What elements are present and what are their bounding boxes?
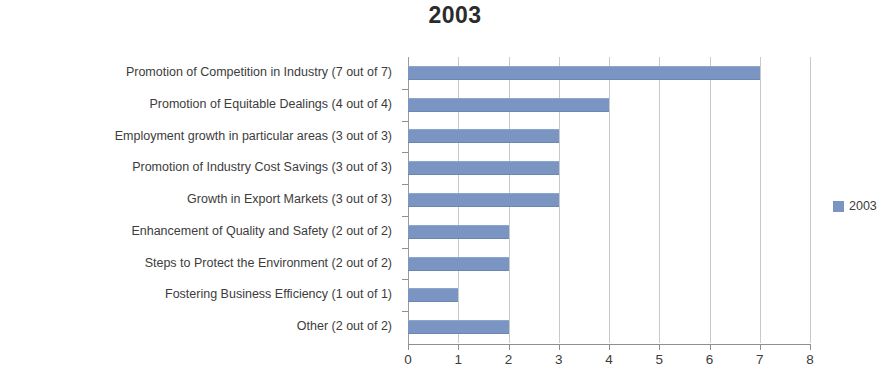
category-label: Promotion of Competition in Industry (7 …: [126, 57, 392, 89]
x-axis-tick: [458, 344, 459, 350]
category-label: Promotion of Equitable Dealings (4 out o…: [150, 89, 393, 121]
bar-row: [408, 248, 810, 280]
y-axis-tick: [402, 216, 408, 217]
x-axis-tick-label: 1: [443, 352, 473, 367]
legend-swatch-2003: [833, 201, 844, 212]
bar-row: [408, 184, 810, 216]
chart-title: 2003: [330, 2, 580, 29]
plot-area: [408, 57, 810, 343]
category-label: Fostering Business Efficiency (1 out of …: [165, 279, 392, 311]
bar: [408, 320, 509, 334]
category-label: Enhancement of Quality and Safety (2 out…: [131, 216, 392, 248]
gridline-8: [810, 57, 811, 343]
y-axis-tick: [402, 279, 408, 280]
legend-label-2003: 2003: [849, 199, 877, 213]
category-label: Growth in Export Markets (3 out of 3): [187, 184, 392, 216]
y-axis-tick: [402, 152, 408, 153]
category-label: Steps to Protect the Environment (2 out …: [145, 248, 392, 280]
bar: [408, 98, 609, 112]
bar-row: [408, 311, 810, 343]
x-axis-tick: [408, 344, 409, 350]
category-label: Promotion of Industry Cost Savings (3 ou…: [132, 152, 392, 184]
x-axis-tick: [710, 344, 711, 350]
bar-row: [408, 121, 810, 153]
bar-chart: 2003 Promotion of Competition in Industr…: [0, 0, 891, 377]
x-axis-tick-label: 4: [594, 352, 624, 367]
x-axis-tick-label: 2: [494, 352, 524, 367]
x-axis-tick: [559, 344, 560, 350]
x-axis-tick: [760, 344, 761, 350]
x-axis-tick-label: 7: [745, 352, 775, 367]
y-axis-tick: [402, 184, 408, 185]
bar-row: [408, 89, 810, 121]
x-axis-tick: [509, 344, 510, 350]
x-axis-tick-label: 0: [393, 352, 423, 367]
x-axis-tick-label: 3: [544, 352, 574, 367]
x-axis-tick-label: 8: [795, 352, 825, 367]
chart-legend: 2003: [833, 199, 877, 213]
bar-row: [408, 279, 810, 311]
x-axis-tick: [659, 344, 660, 350]
category-axis-labels: Promotion of Competition in Industry (7 …: [0, 57, 400, 343]
y-axis-tick: [402, 311, 408, 312]
y-axis-tick: [402, 89, 408, 90]
x-axis-tick: [609, 344, 610, 350]
x-axis-tick: [810, 344, 811, 350]
bar: [408, 66, 760, 80]
category-label: Employment growth in particular areas (3…: [115, 121, 392, 153]
bar: [408, 257, 509, 271]
x-axis-tick-label: 5: [644, 352, 674, 367]
category-label: Other (2 out of 2): [297, 311, 392, 343]
bar: [408, 129, 559, 143]
bar-row: [408, 152, 810, 184]
bar-row: [408, 216, 810, 248]
x-axis-tick-label: 6: [695, 352, 725, 367]
bar: [408, 288, 458, 302]
bar: [408, 225, 509, 239]
bar: [408, 161, 559, 175]
bar-row: [408, 57, 810, 89]
y-axis-tick: [402, 121, 408, 122]
bar: [408, 193, 559, 207]
y-axis-tick: [402, 248, 408, 249]
